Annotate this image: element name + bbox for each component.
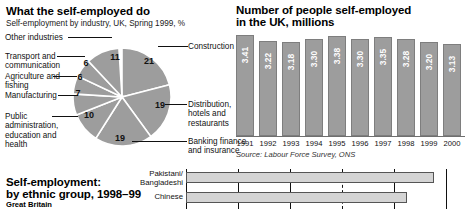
bar-tick-1991: 1991 (233, 139, 257, 148)
bar-tick-1998: 1998 (394, 139, 418, 148)
bar-chart-source: Source: Labour Force Survey, ONS (236, 150, 456, 159)
ethnic-bar-pakistani-bangladeshi (186, 172, 434, 183)
bar-value-2000: 3.13 (447, 56, 457, 72)
bar-value-1998: 3.28 (401, 51, 411, 67)
ethnic-gridline-5 (446, 169, 447, 209)
pie-panel-subtitle: Self-employment by industry, UK, Spring … (6, 19, 234, 29)
bar-value-1992: 3.22 (263, 53, 273, 69)
pie-value-manufacturing: 7 (71, 88, 85, 98)
bar-tick-1995: 1995 (325, 139, 349, 148)
leader-line-distribution (165, 104, 187, 105)
pie-panel-title: What the self-employed do (6, 5, 231, 18)
bar-value-1996: 3.30 (355, 51, 365, 67)
bar-tick-1997: 1997 (371, 139, 395, 148)
leader-line-other-industries (68, 37, 112, 38)
bar-value-1991: 3.41 (240, 47, 250, 63)
leader-line-public-admin (52, 116, 78, 117)
ethnic-category-pakistani-bangladeshi: Pakistani/ Bangladeshi (63, 170, 186, 188)
bar-1997: 3.35 (374, 37, 392, 136)
bar-value-1999: 3.20 (424, 54, 434, 70)
leader-line-agriculture (53, 76, 77, 77)
bar-tick-2000: 2000 (440, 139, 464, 148)
pie-label-public-admin: Public administration, education and hea… (5, 112, 65, 150)
pie-value-transport: 6 (79, 58, 93, 68)
pie-value-banking: 19 (111, 133, 129, 143)
pie-value-construction: 21 (140, 56, 158, 66)
bar-chart-axis-line (236, 136, 465, 137)
bar-value-1995: 3.38 (332, 48, 342, 64)
leader-line-transport (57, 56, 85, 57)
pie-value-other: 11 (106, 52, 124, 62)
ethnic-category-chinese: Chinese (63, 193, 186, 202)
bar-1995: 3.38 (328, 36, 346, 136)
bar-1998: 3.28 (397, 39, 415, 136)
bar-1993: 3.18 (282, 42, 300, 136)
pie-label-agriculture: Agriculture and fishing (5, 72, 65, 91)
bar-tick-1993: 1993 (279, 139, 303, 148)
bar-value-1997: 3.35 (378, 49, 388, 65)
pie-label-transport: Transport and communication (5, 52, 71, 71)
pie-value-distribution: 19 (151, 100, 169, 110)
leader-line-manufacturing (58, 95, 78, 96)
ethnic-bar-chart: Pakistani/ Bangladeshi Chinese (186, 169, 473, 209)
bar-panel-title-line1: Number of people self-employed (236, 4, 472, 17)
bar-chart: 3.41 3.22 3.18 3.30 3.38 3.30 3.35 3.28 … (236, 28, 472, 136)
bar-1999: 3.20 (420, 42, 438, 136)
ethnic-bar-chinese (186, 192, 407, 203)
bar-panel-title-line2: in the UK, millions (236, 16, 472, 29)
bar-value-1993: 3.18 (286, 54, 296, 70)
leader-line-banking (132, 141, 187, 142)
bar-1992: 3.22 (259, 41, 277, 136)
bar-1996: 3.30 (351, 39, 369, 136)
bar-value-1994: 3.30 (309, 51, 319, 67)
pie-value-agriculture: 6 (73, 72, 87, 82)
bar-1994: 3.30 (305, 39, 323, 136)
bar-tick-1992: 1992 (256, 139, 280, 148)
bar-1991: 3.41 (236, 35, 254, 136)
leader-line-construction (158, 46, 188, 47)
bar-tick-1996: 1996 (348, 139, 372, 148)
bar-tick-1994: 1994 (302, 139, 326, 148)
bar-2000: 3.13 (443, 44, 461, 136)
ethnic-category-line2: Bangladeshi (63, 179, 183, 188)
bar-tick-1999: 1999 (417, 139, 441, 148)
pie-value-public: 10 (80, 110, 98, 120)
infographic-root: What the self-employed do Self-employmen… (0, 0, 473, 209)
